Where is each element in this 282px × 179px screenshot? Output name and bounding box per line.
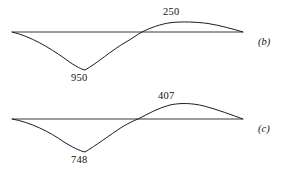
waveform-plot-b [0, 0, 282, 90]
crest-value-label-c: 407 [158, 91, 174, 102]
waveform-curve-b [12, 22, 243, 70]
trough-value-label-b: 950 [71, 73, 87, 84]
figure-panel-c: 407 748 (c) [0, 87, 282, 179]
trough-value-label-c: 748 [71, 155, 87, 166]
panel-tag-b: (b) [258, 37, 270, 48]
panel-tag-c: (c) [258, 124, 270, 135]
crest-value-label-b: 250 [163, 7, 179, 18]
figure-panel-b: 250 950 (b) [0, 0, 282, 90]
figure-stack: 250 950 (b) 407 748 (c) [0, 0, 282, 179]
waveform-curve-c [12, 104, 243, 152]
waveform-plot-c [0, 87, 282, 179]
